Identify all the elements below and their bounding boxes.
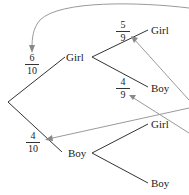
prob-girl-boy: 49	[116, 77, 130, 100]
node-girl-boy: Boy	[151, 83, 169, 94]
node-boy-girl: Girl	[151, 119, 169, 130]
prob-girl-girl: 59	[116, 20, 130, 43]
node-girl: Girl	[66, 52, 84, 63]
node-boy: Boy	[68, 148, 86, 159]
branch-boy-girl	[92, 124, 148, 153]
node-girl-girl: Girl	[151, 25, 169, 36]
prob-boy: 410	[26, 131, 40, 154]
node-boy-boy: Boy	[151, 178, 169, 189]
branch-boy-boy	[92, 153, 148, 183]
prob-girl: 610	[25, 53, 39, 76]
